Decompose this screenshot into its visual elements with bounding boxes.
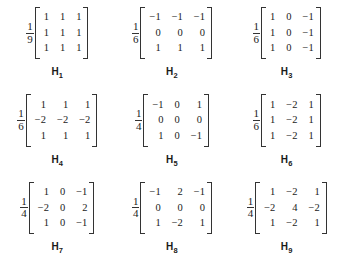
matrix-cell-value: 1 — [145, 41, 162, 57]
matrix-expression: 141−21−24−21−21 — [247, 182, 327, 235]
scale-fraction: 14 — [20, 196, 28, 220]
matrix-label-base: H — [166, 241, 173, 252]
matrix-cell-value: 1 — [67, 41, 83, 57]
fraction-denominator: 6 — [253, 120, 261, 133]
matrix-row: 111 — [145, 41, 207, 57]
matrix-cell-value: 1 — [185, 216, 207, 232]
matrix-cell-value: −1 — [182, 128, 204, 144]
matrix-row: 111 — [40, 25, 84, 41]
matrix-cell-value: 1 — [40, 41, 51, 57]
matrix-label-base: H — [51, 66, 58, 77]
matrix-row: 111 — [31, 97, 93, 113]
matrix-row: 10−1 — [266, 25, 316, 41]
matrix-cell-value: 1 — [266, 25, 277, 41]
fraction-numerator: 1 — [132, 196, 140, 208]
matrix-label-subscript: 4 — [59, 159, 63, 168]
matrix-cell-value: 2 — [67, 200, 89, 216]
scale-fraction: 16 — [253, 108, 261, 132]
matrix-label-subscript: 5 — [174, 159, 178, 168]
matrix-cell-value: 1 — [70, 128, 92, 144]
scale-fraction: 16 — [132, 21, 140, 45]
fraction-denominator: 4 — [135, 120, 143, 133]
matrix-cell-value: −1 — [145, 185, 162, 201]
matrix-cell-value: 0 — [145, 200, 162, 216]
matrix-label: H4 — [51, 154, 63, 168]
matrix-label-subscript: 6 — [288, 159, 292, 168]
matrix-body: 10−110−110−1 — [261, 7, 321, 60]
scale-fraction: 19 — [26, 21, 34, 45]
matrix-cell-value: −1 — [294, 41, 316, 57]
matrix-cell-value: 1 — [266, 97, 277, 113]
matrix-row: −202 — [34, 200, 90, 216]
matrix-cell-h4: 16111−2−2−2111H4 — [0, 87, 115, 174]
matrix-label: H6 — [281, 154, 293, 168]
matrix-cell-value: −2 — [31, 113, 48, 129]
matrix-cell-value: −2 — [163, 216, 185, 232]
matrix-body: 111111111 — [35, 7, 89, 60]
matrix-label-subscript: 7 — [59, 246, 63, 255]
matrix-cell-value: −2 — [70, 113, 92, 129]
matrix-cell-value: 0 — [51, 185, 67, 201]
matrix-row: 1−21 — [145, 216, 207, 232]
matrix-cell-value: −2 — [260, 200, 277, 216]
matrix-expression: 19111111111 — [26, 7, 88, 60]
scale-fraction: 16 — [253, 21, 261, 45]
matrix-cell-value: −1 — [163, 10, 185, 26]
matrix-body: −1−1−1000111 — [140, 7, 212, 60]
fraction-numerator: 1 — [253, 108, 261, 120]
fraction-numerator: 1 — [26, 21, 34, 33]
matrix-cell-value: −1 — [294, 10, 316, 26]
matrix-row: −1−1−1 — [145, 10, 207, 26]
matrix-cell-value: 1 — [31, 97, 48, 113]
scale-fraction: 14 — [132, 196, 140, 220]
matrix-cell-value: −1 — [67, 216, 89, 232]
matrix-cell-value: 1 — [48, 128, 70, 144]
matrix-label-base: H — [51, 241, 58, 252]
matrix-cell-value: 1 — [148, 128, 165, 144]
matrix-cell-value: 1 — [51, 10, 67, 26]
matrix-label-subscript: 1 — [59, 71, 63, 80]
matrix-cell-value: 0 — [166, 128, 182, 144]
matrix-cell-value: 1 — [40, 10, 51, 26]
fraction-denominator: 9 — [26, 33, 34, 46]
matrix-row: 1−21 — [266, 128, 316, 144]
matrix-expression: 1610−110−110−1 — [253, 7, 321, 60]
matrix-expression: 14−12−10001−21 — [132, 182, 212, 235]
matrix-cell-value: −2 — [277, 185, 299, 201]
matrix-cell-value: 1 — [163, 41, 185, 57]
fraction-numerator: 1 — [17, 108, 25, 120]
matrix-expression: 16111−2−2−2111 — [17, 94, 97, 147]
matrix-label: H3 — [281, 66, 293, 80]
matrix-cell-value: 1 — [67, 10, 83, 26]
matrix-cell-value: 1 — [70, 97, 92, 113]
matrix-cell-value: 0 — [51, 216, 67, 232]
matrix-cell-value: 0 — [145, 25, 162, 41]
matrix-label: H9 — [281, 241, 293, 255]
matrix-label-base: H — [51, 154, 58, 165]
matrix-cell-value: 0 — [185, 200, 207, 216]
matrix-cell-value: 1 — [299, 97, 315, 113]
matrix-row: 10−1 — [34, 185, 90, 201]
matrix-row: 1−21 — [266, 113, 316, 129]
matrix-row: 10−1 — [34, 216, 90, 232]
matrix-row: 1−21 — [260, 216, 322, 232]
fraction-numerator: 1 — [132, 21, 140, 33]
fraction-numerator: 1 — [247, 196, 255, 208]
matrix-cell-value: 1 — [40, 25, 51, 41]
matrix-expression: 16−1−1−1000111 — [132, 7, 212, 60]
matrix-expression: 14−10100010−1 — [135, 94, 209, 147]
matrix-label-base: H — [166, 154, 173, 165]
matrix-cell-value: 1 — [299, 128, 315, 144]
fraction-denominator: 6 — [253, 33, 261, 46]
matrix-cell-value: −2 — [299, 200, 321, 216]
matrix-row: 111 — [31, 128, 93, 144]
matrix-expression: 1410−1−20210−1 — [20, 182, 94, 235]
matrix-cell-value: 1 — [145, 216, 162, 232]
matrix-row: −2−2−2 — [31, 113, 93, 129]
matrix-cell-value: −2 — [277, 97, 299, 113]
matrix-cell-value: 0 — [166, 97, 182, 113]
matrix-cell-value: 0 — [163, 200, 185, 216]
matrix-cell-value: 0 — [163, 25, 185, 41]
matrix-cell-value: −2 — [277, 128, 299, 144]
matrix-row: 000 — [145, 25, 207, 41]
